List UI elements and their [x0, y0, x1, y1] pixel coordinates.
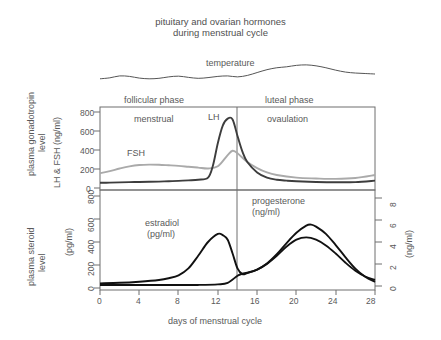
hormone-cycle-figure: pituitary and ovarian hormones during me… — [0, 0, 441, 340]
x-ticks — [100, 290, 375, 295]
lower-y-ticks — [94, 196, 100, 288]
right-y-ticks — [375, 198, 382, 286]
upper-y-ticks — [94, 112, 100, 188]
temperature-curve — [100, 65, 375, 79]
plot-canvas — [0, 0, 441, 340]
